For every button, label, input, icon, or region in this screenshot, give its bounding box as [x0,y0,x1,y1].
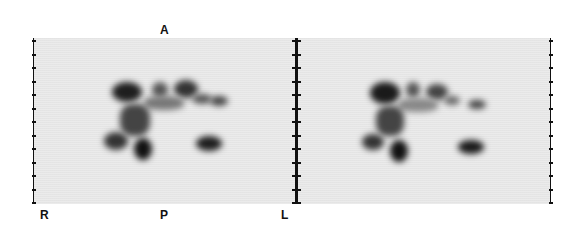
tick-mark [292,94,301,96]
tick-mark [549,148,553,150]
tick-mark [32,189,36,191]
tick-mark [549,94,553,96]
tick-mark [32,135,36,137]
uptake-blob [468,100,486,109]
tick-mark [292,162,301,164]
tick-mark [292,121,301,123]
tick-mark [549,121,553,123]
tick-mark [32,148,36,150]
tick-mark [32,54,36,56]
tick-mark [549,189,553,191]
tick-mark [549,67,553,69]
tick-mark [292,175,301,177]
uptake-blob [210,96,228,106]
scan-panel-left [34,38,296,204]
tick-mark [292,81,301,83]
tick-mark [292,189,301,191]
tick-mark [32,40,36,42]
tick-mark [549,175,553,177]
left-side-label: L [281,209,288,221]
uptake-blob [112,82,142,102]
anterior-label: A [160,24,169,36]
uptake-blob [362,134,384,150]
tick-mark [292,54,301,56]
tick-mark [32,175,36,177]
uptake-blob [144,96,184,110]
uptake-blob [444,96,460,105]
tick-mark [549,108,553,110]
uptake-blob [134,138,152,160]
tick-mark [549,81,553,83]
scan-panel-right [298,38,551,204]
tick-mark [32,81,36,83]
tick-mark [32,162,36,164]
uptake-blob [406,82,420,98]
tick-mark [549,40,553,42]
tick-mark [549,54,553,56]
uptake-blob [390,140,408,162]
tick-mark [292,202,301,204]
tick-mark [292,67,301,69]
uptake-blob [458,140,484,154]
tick-mark [32,67,36,69]
tick-mark [292,40,301,42]
posterior-label: P [160,209,168,221]
tick-mark [32,94,36,96]
tick-mark [32,108,36,110]
tick-mark [292,148,301,150]
uptake-blob [196,136,222,151]
uptake-blob [398,98,438,112]
tick-mark [32,202,36,204]
uptake-blob [376,106,404,136]
uptake-blob [104,132,128,150]
uptake-blob [370,82,400,104]
uptake-blob [120,104,150,136]
uptake-blob [192,94,212,104]
tick-mark [32,121,36,123]
tick-mark [549,135,553,137]
right-side-label: R [40,209,49,221]
tick-mark [292,108,301,110]
tick-mark [549,202,553,204]
tick-mark [549,162,553,164]
tick-mark [292,135,301,137]
